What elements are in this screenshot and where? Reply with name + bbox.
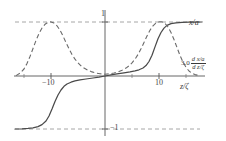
x-tick-label-plus-ten: 10 bbox=[155, 79, 163, 87]
figure-plot: 1 −1 −10 10 z/ζ x/a 3.0d x/ad z/ζ bbox=[0, 0, 226, 141]
derivative-numerator: d x/a bbox=[191, 56, 206, 63]
derivative-denominator: d z/ζ bbox=[191, 63, 206, 71]
derivative-fraction: d x/ad z/ζ bbox=[191, 56, 206, 71]
y-tick-label-minus-one: −1 bbox=[110, 124, 119, 132]
curve-derivative bbox=[16, 22, 200, 76]
x-tick-label-minus-ten: −10 bbox=[42, 79, 55, 87]
y-tick-label-plus-one: 1 bbox=[101, 10, 105, 18]
curve-label-derivative: 3.0d x/ad z/ζ bbox=[181, 54, 206, 71]
curve-label-x-over-a: x/a bbox=[189, 19, 199, 27]
derivative-prefix: 3.0 bbox=[181, 59, 190, 67]
x-axis-label: z/ζ bbox=[180, 83, 189, 91]
